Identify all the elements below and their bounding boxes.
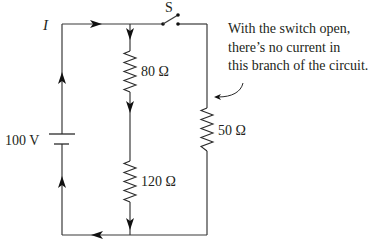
annotation-line-2: there’s no current in	[228, 39, 368, 58]
current-label: I	[43, 18, 48, 33]
bottom-wire	[62, 231, 207, 239]
switch-terminal-right	[176, 22, 180, 26]
annotation-line-1: With the switch open,	[228, 20, 368, 39]
resistor-120-ohm	[124, 161, 136, 202]
callout-pointer	[214, 83, 243, 100]
battery-voltage-label: 100 V	[5, 134, 39, 148]
middle-branch	[124, 24, 136, 235]
top-wire	[62, 20, 207, 28]
callout-curve	[218, 83, 243, 97]
switch-lever-tip	[176, 13, 180, 17]
resistor-80-label: 80 Ω	[141, 65, 169, 79]
right-branch	[201, 24, 213, 235]
switch	[161, 13, 180, 26]
resistor-50-label: 50 Ω	[218, 124, 246, 138]
resistor-80-ohm	[124, 51, 136, 92]
switch-label: S	[165, 1, 173, 15]
resistor-50-ohm	[201, 108, 213, 151]
switch-lever	[163, 15, 178, 24]
left-branch	[49, 24, 75, 235]
resistor-120-label: 120 Ω	[141, 175, 176, 189]
annotation-line-3: this branch of the circuit.	[228, 57, 368, 76]
annotation-text: With the switch open, there’s no current…	[228, 20, 368, 76]
